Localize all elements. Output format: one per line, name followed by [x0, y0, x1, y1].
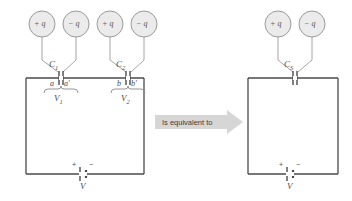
right-battery-minus-sign: − — [296, 161, 300, 168]
right-battery-plus-sign: + — [279, 161, 283, 168]
voltage-v2-subscript: 2 — [127, 98, 130, 105]
capacitor-c1-symbol — [59, 71, 63, 85]
capacitor-cs-label: CS — [284, 60, 293, 71]
capacitors-in-series-diagram: + q − q + q − q C1 C2 a a′ b b′ V1 V2 + … — [0, 0, 352, 201]
left-battery-voltage-label: V — [80, 182, 86, 191]
leader-line-minus-q-cs — [298, 37, 312, 72]
charge-label-plus-q-c2: + q — [102, 20, 113, 28]
charge-label-plus-q-c1: + q — [34, 20, 45, 28]
right-battery-voltage-label: V — [287, 182, 293, 191]
capacitor-c2-subscript: 2 — [122, 64, 125, 71]
leader-line-minus-q-c1 — [63, 37, 76, 72]
capacitor-c1-subscript: 1 — [55, 64, 58, 71]
right-battery-symbol — [286, 167, 294, 181]
left-battery-plus-sign: + — [72, 161, 76, 168]
plate-label-a: a — [50, 80, 54, 88]
charge-label-plus-q-cs: + q — [270, 20, 281, 28]
equivalence-label: Is equivalent to — [162, 118, 212, 127]
voltage-v2-label: V2 — [121, 94, 130, 105]
leader-line-minus-q-c2 — [131, 37, 144, 72]
voltage-v1-label: V1 — [54, 94, 63, 105]
charge-label-minus-q-cs: − q — [304, 20, 315, 28]
capacitor-cs-symbol — [293, 71, 297, 85]
charge-label-minus-q-c1: − q — [68, 20, 79, 28]
voltage-v1-subscript: 1 — [60, 98, 63, 105]
plate-label-b-prime: b′ — [131, 80, 137, 88]
capacitor-c2-symbol — [126, 71, 130, 85]
left-battery-symbol — [79, 167, 87, 181]
capacitor-c1-label: C1 — [49, 60, 58, 71]
plate-label-a-prime: a′ — [64, 80, 70, 88]
diagram-canvas — [0, 0, 352, 201]
capacitor-c2-label: C2 — [116, 60, 125, 71]
capacitor-cs-subscript: S — [290, 64, 293, 71]
left-battery-minus-sign: − — [89, 161, 93, 168]
charge-label-minus-q-c2: − q — [136, 20, 147, 28]
plate-label-b: b — [117, 80, 121, 88]
